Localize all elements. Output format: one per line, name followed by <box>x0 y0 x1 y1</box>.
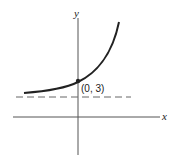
x-axis-label: x <box>161 110 167 122</box>
exponential-curve <box>24 22 119 93</box>
y-axis-label: y <box>73 7 79 19</box>
graph-canvas: y x (0, 3) <box>0 0 173 166</box>
y-intercept-point <box>76 79 80 83</box>
point-label: (0, 3) <box>81 83 104 94</box>
